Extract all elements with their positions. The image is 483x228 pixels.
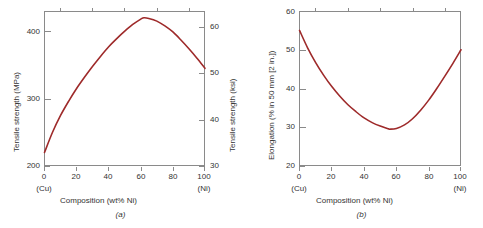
panel-a: Tensile strength (MPa) Tensile strength … [0,0,241,228]
panel-caption-b: (b) [241,210,482,219]
elongation-curve [241,0,482,228]
panel-b: Elongation (% in 50 mm [2 in.]) Composit… [241,0,482,228]
panel-caption-a: (a) [0,210,241,219]
figure-container: Tensile strength (MPa) Tensile strength … [0,0,483,228]
tensile-strength-curve [0,0,241,228]
